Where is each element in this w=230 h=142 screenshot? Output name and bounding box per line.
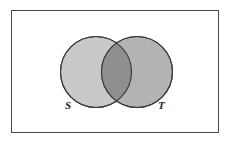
- set-label-t: T: [158, 100, 165, 111]
- venn-circles-svg: [0, 0, 230, 142]
- set-label-s: S: [65, 100, 71, 111]
- venn-diagram-figure: S T: [0, 0, 230, 142]
